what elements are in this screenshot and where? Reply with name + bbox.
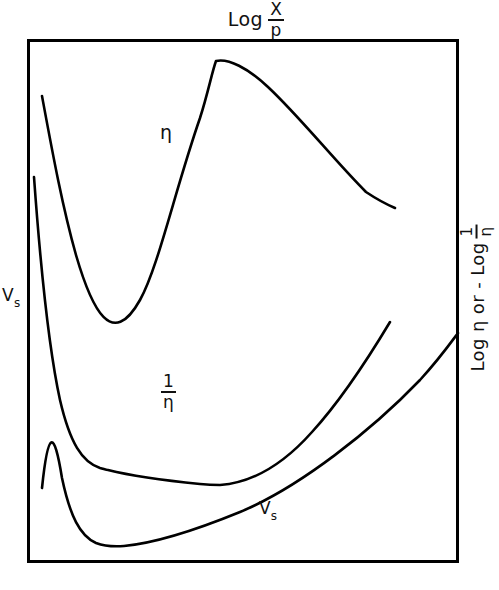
curve-label-vs-base: V bbox=[259, 498, 271, 518]
curve-label-inv-eta: 1 η bbox=[161, 372, 176, 410]
curve-label-inv-eta-denominator: η bbox=[161, 393, 176, 411]
curve-label-vs: Vs bbox=[259, 498, 277, 521]
curve-label-vs-subscript: s bbox=[271, 509, 277, 523]
curve-vs bbox=[42, 333, 458, 546]
curve-eta bbox=[42, 60, 395, 322]
curve-label-eta: η bbox=[160, 121, 172, 143]
chart-figure: Log X p Vs Log η or - Log 1 η bbox=[0, 0, 499, 590]
plot-area bbox=[0, 0, 499, 590]
curve-label-inv-eta-fraction: 1 η bbox=[161, 373, 176, 411]
curve-inv-eta bbox=[34, 177, 390, 485]
curve-label-inv-eta-numerator: 1 bbox=[161, 373, 176, 391]
